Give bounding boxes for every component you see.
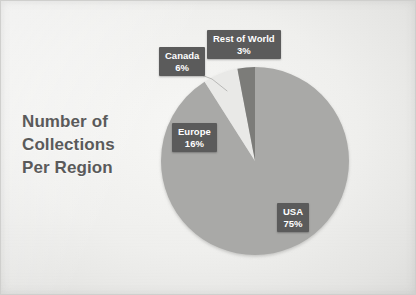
data-label-rest-of-world: Rest of World 3% — [207, 30, 281, 59]
data-label-europe: Europe 16% — [172, 123, 217, 152]
data-label-europe-value: 16% — [178, 138, 211, 150]
data-label-usa-name: USA — [283, 206, 303, 218]
data-label-usa: USA 75% — [277, 203, 309, 232]
data-label-europe-name: Europe — [178, 126, 211, 138]
data-label-canada: Canada 6% — [159, 47, 205, 76]
data-label-canada-value: 6% — [165, 62, 199, 74]
data-label-rest-of-world-name: Rest of World — [213, 33, 275, 45]
data-label-usa-value: 75% — [283, 218, 303, 230]
data-label-canada-name: Canada — [165, 50, 199, 62]
slide-canvas: Number of Collections Per Region Canada … — [0, 0, 416, 295]
data-label-rest-of-world-value: 3% — [213, 45, 275, 57]
